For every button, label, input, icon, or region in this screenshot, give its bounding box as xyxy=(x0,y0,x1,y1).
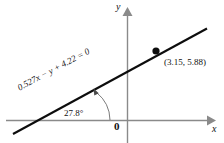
angle-arc-path xyxy=(97,93,111,121)
y-axis xyxy=(123,7,133,143)
x-axis-label: x xyxy=(212,123,216,134)
origin-label: 0 xyxy=(114,120,120,132)
line-graph-figure: y x 0 27.8° (3.15, 5.88) 0.527x − y + 4.… xyxy=(0,0,224,143)
y-axis-label: y xyxy=(116,1,120,12)
point-coordinates-label: (3.15, 5.88) xyxy=(164,57,206,67)
marked-point xyxy=(152,47,159,54)
inclination-angle-label: 27.8° xyxy=(64,108,83,118)
angle-arc xyxy=(94,89,111,121)
figure-canvas xyxy=(0,0,224,143)
y-axis-arrowhead xyxy=(123,7,133,16)
